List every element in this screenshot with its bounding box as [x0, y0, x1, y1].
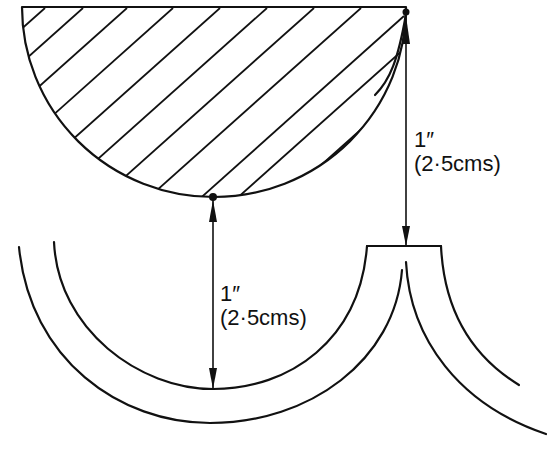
right-inner-arc: [441, 246, 519, 385]
dimension-center: [209, 193, 217, 389]
outer-u-arc: [19, 247, 402, 423]
right-dimension-metric: (2·5cms): [414, 152, 501, 176]
center-dimension-imperial: 1″: [220, 282, 307, 306]
inner-u-arc: [54, 242, 367, 389]
center-dimension-metric: (2·5cms): [220, 306, 307, 330]
diagram-canvas: [0, 0, 547, 454]
center-dimension-label: 1″ (2·5cms): [220, 282, 307, 330]
right-arcs: [406, 246, 546, 434]
lower-u-arcs: [19, 242, 402, 423]
right-dimension-label: 1″ (2·5cms): [414, 128, 501, 176]
semicircle-outline: [22, 7, 406, 197]
right-dimension-imperial: 1″: [414, 128, 501, 152]
